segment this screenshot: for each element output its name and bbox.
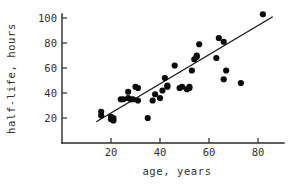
data-point: [216, 35, 222, 41]
chart-figure: 2040608010020406080 age, yearshalf-life,…: [0, 0, 288, 187]
data-point: [110, 115, 116, 121]
data-point: [98, 112, 104, 118]
data-point: [196, 41, 202, 47]
axes-group: [62, 14, 284, 143]
scatter-plot-svg: 2040608010020406080 age, yearshalf-life,…: [0, 0, 288, 187]
y-tick-label: 80: [44, 37, 57, 49]
data-point: [125, 89, 131, 95]
data-point: [186, 85, 192, 91]
x-tick-label: 40: [154, 146, 167, 158]
data-point: [221, 76, 227, 82]
data-point: [221, 39, 227, 45]
data-point: [172, 62, 178, 68]
x-tick-label: 20: [105, 146, 118, 158]
data-point: [152, 91, 158, 97]
data-point: [189, 67, 195, 73]
data-point: [238, 80, 244, 86]
data-point: [164, 84, 170, 90]
x-tick-label: 60: [203, 146, 216, 158]
x-tick-label: 80: [252, 146, 265, 158]
y-tick-label: 60: [44, 62, 57, 74]
data-point: [260, 11, 266, 17]
data-point: [159, 87, 165, 93]
data-point: [150, 97, 156, 103]
data-point: [223, 67, 229, 73]
y-axis-title: half-life, hours: [5, 23, 17, 134]
x-axis-title: age, years: [142, 165, 211, 177]
tick-labels-group: 2040608010020406080: [38, 12, 264, 158]
data-point: [213, 55, 219, 61]
y-tick-label: 20: [44, 112, 57, 124]
data-point: [162, 75, 168, 81]
y-tick-label: 40: [44, 87, 57, 99]
tick-marks-group: [62, 18, 258, 143]
regression-line-segment: [96, 17, 272, 122]
data-point: [145, 115, 151, 121]
data-points-group: [98, 11, 266, 123]
y-tick-label: 100: [38, 12, 57, 24]
data-point: [194, 52, 200, 58]
data-point: [135, 85, 141, 91]
data-point: [157, 95, 163, 101]
data-point: [135, 97, 141, 103]
regression-line: [96, 17, 272, 122]
